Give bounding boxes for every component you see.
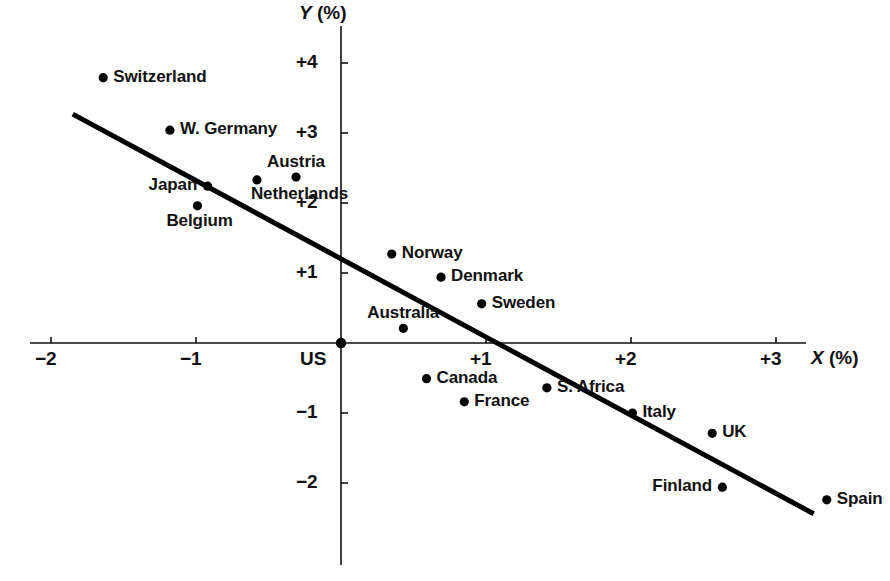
point-label: Italy (642, 402, 676, 422)
y-tick-label: −2 (296, 471, 318, 493)
x-tick-label: +2 (615, 348, 637, 370)
x-tick-label: −1 (180, 348, 202, 370)
origin-label-us: US (300, 348, 326, 370)
data-point (193, 201, 202, 210)
point-label: UK (722, 422, 746, 442)
y-axis-title: Y (%) (299, 2, 347, 24)
data-point (99, 73, 108, 82)
data-point (477, 299, 486, 308)
regression-line (73, 114, 814, 514)
point-label: Switzerland (113, 67, 206, 87)
scatter-plot-figure: −2−1+1+2+3+4+3+2+1−1−2US SwitzerlandW. G… (0, 0, 890, 581)
plot-canvas (0, 0, 890, 581)
data-point (422, 374, 431, 383)
point-label: Sweden (492, 293, 556, 313)
point-label: Norway (402, 243, 463, 263)
data-point (336, 338, 346, 348)
point-label: S. Africa (557, 377, 624, 397)
point-label: Denmark (451, 266, 523, 286)
data-point (460, 397, 469, 406)
point-label: Austria (267, 152, 325, 172)
data-point (436, 273, 445, 282)
x-tick-label: −2 (35, 348, 57, 370)
point-label: Australia (367, 303, 439, 323)
point-label: Japan (149, 175, 198, 195)
x-axis-variable: X (811, 347, 824, 368)
data-point (628, 408, 637, 417)
data-point (291, 173, 300, 182)
y-axis-variable: Y (299, 2, 312, 23)
data-point (399, 324, 408, 333)
point-label: Canada (437, 368, 498, 388)
y-tick-label: +4 (296, 51, 318, 73)
x-axis-title: X (%) (811, 347, 859, 369)
x-tick-label: +3 (760, 348, 782, 370)
y-tick-label: +3 (296, 121, 318, 143)
x-axis-unit: (%) (824, 347, 859, 368)
data-point (165, 126, 174, 135)
point-label: W. Germany (180, 119, 277, 139)
y-tick-label: −1 (296, 401, 318, 423)
data-point (542, 383, 551, 392)
data-point (718, 483, 727, 492)
y-tick-label: +1 (296, 261, 318, 283)
point-label: France (474, 391, 529, 411)
y-axis-unit: (%) (312, 2, 347, 23)
point-label: Belgium (166, 211, 232, 231)
point-label: Finland (652, 476, 712, 496)
data-point (708, 429, 717, 438)
point-label: Spain (837, 489, 883, 509)
x-tick-label: +1 (470, 348, 492, 370)
data-point (387, 250, 396, 259)
point-label: Netherlands (251, 184, 348, 204)
data-point (822, 495, 831, 504)
data-point (203, 182, 212, 191)
